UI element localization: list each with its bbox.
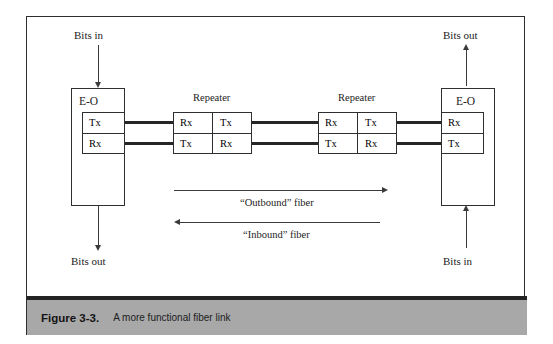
right-eo-port-rx-label: Rx [441,117,460,128]
fiber-rep2-tx-to-right-eo-rx [397,121,441,124]
figure-caption-bar: Figure 3-3. A more functional fiber link [27,296,527,335]
repeater-1-cell-rx-in[interactable]: Rx [173,112,212,133]
fiber-rep1-tx-to-rep2-rx [252,121,318,124]
outbound-fiber-label: “Outbound” fiber [240,198,314,209]
repeater-2-cell-rx-back[interactable]: Rx [358,133,397,154]
repeater-2-cell-tx-back-label: Tx [318,138,337,149]
inbound-fiber-label: “Inbound” fiber [243,230,310,241]
right-eo-port-tx-label: Tx [441,138,460,149]
outbound-fiber-arrow-line [174,190,384,191]
figure-root: Bits in Bits out E-O Tx Rx Bits out Repe… [0,0,553,344]
label-bits-out-top-right: Bits out [443,30,478,41]
fiber-left-eo-tx-to-rep1-rx [125,121,173,124]
fiber-rep1-tx-to-left-eo-rx [125,142,173,145]
arrowhead-right-icon-outbound [382,187,388,193]
figure-caption-text: A more functional fiber link [113,312,230,323]
repeater-1-cell-tx-back-label: Tx [173,138,192,149]
inbound-fiber-arrow-line [180,222,380,223]
right-eo-port-tx[interactable]: Tx [441,133,484,154]
arrow-line-bits-in-bottom-right [466,208,467,248]
right-eo-port-rx[interactable]: Rx [441,112,484,133]
left-eo-port-tx[interactable]: Tx [82,112,125,133]
fiber-rep2-tx-to-rep1-tx [252,142,318,145]
repeater-1-cell-tx-back[interactable]: Tx [173,133,212,154]
repeater-2-cell-tx-out[interactable]: Tx [358,112,397,133]
repeater-1-label: Repeater [193,93,230,104]
left-eo-port-rx-label: Rx [82,138,101,149]
diagram-canvas: Bits in Bits out E-O Tx Rx Bits out Repe… [0,0,553,344]
repeater-2-cell-rx-back-label: Rx [358,138,377,149]
arrow-line-bits-out-bottom-left [98,206,99,247]
repeater-1-cell-tx-out[interactable]: Tx [213,112,252,133]
repeater-1-cell-rx-back[interactable]: Rx [213,133,252,154]
left-eo-label: E-O [79,96,98,108]
arrow-line-bits-in-top-left [98,45,99,84]
arrowhead-down-icon-bottom-left [95,245,101,251]
arrow-line-bits-out-top-right [466,46,467,86]
repeater-1-cell-tx-out-label: Tx [213,117,232,128]
repeater-2-cell-rx-in-label: Rx [318,117,337,128]
repeater-2-cell-tx-out-label: Tx [358,117,377,128]
figure-caption-number: Figure 3-3. [41,312,99,324]
left-eo-port-rx[interactable]: Rx [82,133,125,154]
repeater-2-cell-rx-in[interactable]: Rx [318,112,357,133]
left-eo-port-tx-label: Tx [82,117,101,128]
repeater-1-cell-rx-back-label: Rx [213,138,232,149]
right-eo-label: E-O [456,96,475,108]
arrowhead-up-icon-bottom-right [463,205,469,211]
label-bits-out-bottom-left: Bits out [71,256,106,267]
repeater-1-cell-rx-in-label: Rx [173,117,192,128]
label-bits-in-top-left: Bits in [74,30,103,41]
fiber-right-eo-tx-to-rep2-rx [397,142,441,145]
repeater-2-label: Repeater [338,93,375,104]
arrowhead-up-icon-top-right [463,44,469,50]
label-bits-in-bottom-right: Bits in [443,256,472,267]
repeater-2-cell-tx-back[interactable]: Tx [318,133,357,154]
